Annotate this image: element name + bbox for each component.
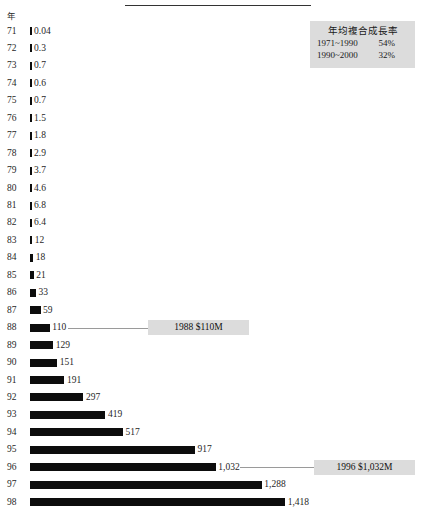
- bar-row-year-label: 79: [7, 165, 25, 176]
- bar-row: 710.04: [0, 26, 423, 37]
- bar: [30, 149, 32, 157]
- bar: [30, 219, 32, 227]
- bar-row-year-label: 96: [7, 462, 25, 473]
- bar-value-label: 129: [56, 340, 70, 351]
- bar: [30, 79, 32, 87]
- bar-row: 95917: [0, 444, 423, 455]
- bar-row-year-label: 72: [7, 43, 25, 54]
- bar-row-year-label: 87: [7, 305, 25, 316]
- bar: [30, 306, 41, 314]
- bar-value-label: 59: [43, 305, 53, 316]
- bar-value-label: 0.7: [34, 60, 46, 71]
- bar-row-year-label: 90: [7, 357, 25, 368]
- bar-row: 8759: [0, 305, 423, 316]
- bar-row: 8633: [0, 287, 423, 298]
- bar-row-year-label: 91: [7, 375, 25, 386]
- bar-row-year-label: 85: [7, 270, 25, 281]
- bar-row: 981,418: [0, 497, 423, 508]
- bar-value-label: 4.6: [34, 183, 46, 194]
- bar-row-year-label: 80: [7, 183, 25, 194]
- bar-value-label: 517: [126, 427, 140, 438]
- bar-value-label: 18: [36, 252, 46, 263]
- bar-row: 730.7: [0, 60, 423, 71]
- bar: [30, 446, 195, 454]
- bar-row-year-label: 95: [7, 444, 25, 455]
- bar: [30, 202, 32, 210]
- bar-value-label: 2.9: [34, 148, 46, 159]
- bar-row-year-label: 78: [7, 148, 25, 159]
- bar: [30, 463, 216, 471]
- bar-value-label: 1,288: [264, 479, 285, 490]
- bar-row: 804.6: [0, 183, 423, 194]
- bar-row: 771.8: [0, 130, 423, 141]
- callout-1996: 1996 $1,032M: [314, 460, 415, 475]
- bar-row: 826.4: [0, 217, 423, 228]
- bar-row-year-label: 94: [7, 427, 25, 438]
- bar-value-label: 33: [38, 287, 48, 298]
- bar-row-year-label: 73: [7, 60, 25, 71]
- bar-row: 971,288: [0, 479, 423, 490]
- bar-value-label: 1.5: [34, 113, 46, 124]
- bar-value-label: 191: [67, 375, 81, 386]
- bar-row-year-label: 86: [7, 287, 25, 298]
- bar: [30, 341, 53, 349]
- bar-row: 89129: [0, 340, 423, 351]
- bar-row: 740.6: [0, 78, 423, 89]
- bar: [30, 62, 32, 70]
- bar-value-label: 6.8: [34, 200, 46, 211]
- bar-row-year-label: 74: [7, 78, 25, 89]
- bar: [30, 324, 50, 332]
- bar-value-label: 297: [86, 392, 100, 403]
- bar-row-year-label: 81: [7, 200, 25, 211]
- bar-row-year-label: 88: [7, 322, 25, 333]
- bar-value-label: 1.8: [34, 130, 46, 141]
- bar-value-label: 110: [52, 322, 66, 333]
- bar: [30, 359, 57, 367]
- bar-row-year-label: 93: [7, 409, 25, 420]
- bar: [30, 44, 32, 52]
- bar-value-label: 419: [108, 409, 122, 420]
- bar-value-label: 0.7: [34, 95, 46, 106]
- bar: [30, 184, 32, 192]
- bar-value-label: 6.4: [34, 217, 46, 228]
- bar: [30, 27, 32, 35]
- bar-row-year-label: 98: [7, 497, 25, 508]
- bar-row-year-label: 76: [7, 113, 25, 124]
- bar-row: 782.9: [0, 148, 423, 159]
- callout-leader-line-1996: [240, 467, 314, 468]
- bar: [30, 132, 32, 140]
- bar: [30, 271, 34, 279]
- bar: [30, 393, 83, 401]
- bar: [30, 289, 36, 297]
- bar: [30, 167, 32, 175]
- bar-row-year-label: 92: [7, 392, 25, 403]
- bar-value-label: 0.6: [34, 78, 46, 89]
- bar: [30, 97, 32, 105]
- bar: [30, 376, 64, 384]
- bar-row-year-label: 84: [7, 252, 25, 263]
- bar-row-year-label: 75: [7, 95, 25, 106]
- bar-row: 92297: [0, 392, 423, 403]
- bar-value-label: 1,418: [288, 497, 309, 508]
- bar: [30, 236, 32, 244]
- bar-row: 94517: [0, 427, 423, 438]
- bar-row-year-label: 89: [7, 340, 25, 351]
- callout-leader-line-1988: [68, 328, 148, 329]
- bar-row: 793.7: [0, 165, 423, 176]
- bar-row: 93419: [0, 409, 423, 420]
- bar-row: 8418: [0, 252, 423, 263]
- bar-row: 816.8: [0, 200, 423, 211]
- bar-row: 8521: [0, 270, 423, 281]
- bar-value-label: 0.3: [34, 43, 46, 54]
- bar-value-label: 1,032: [218, 462, 239, 473]
- bar-row: 761.5: [0, 113, 423, 124]
- bar-value-label: 151: [60, 357, 74, 368]
- bar-value-label: 917: [198, 444, 212, 455]
- bar-value-label: 12: [35, 235, 45, 246]
- bar: [30, 498, 285, 506]
- bar: [30, 481, 262, 489]
- bar-value-label: 3.7: [34, 165, 46, 176]
- bar-row: 91191: [0, 375, 423, 386]
- bar-row-year-label: 82: [7, 217, 25, 228]
- bar-row-year-label: 83: [7, 235, 25, 246]
